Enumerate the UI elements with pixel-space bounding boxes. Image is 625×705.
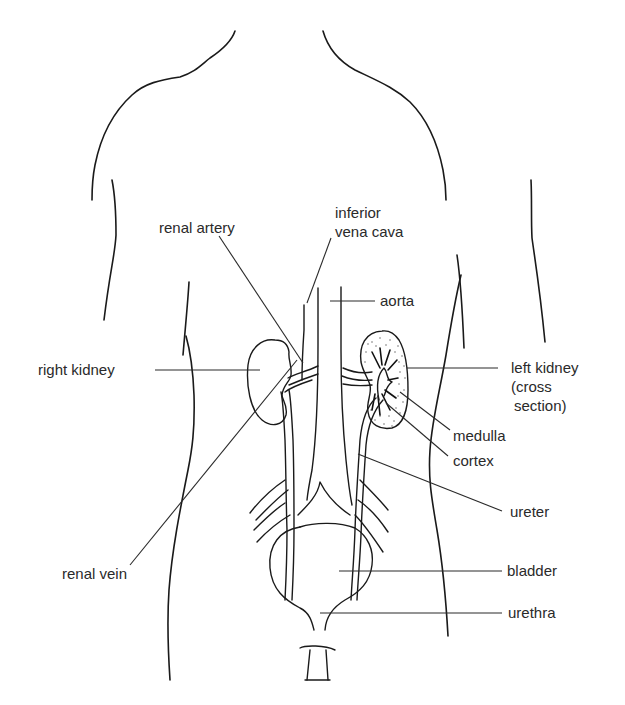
labels: renal artery inferior vena cava aorta ri… — [38, 204, 579, 621]
label-left-kidney-1: left kidney — [511, 359, 579, 376]
label-bladder: bladder — [507, 562, 557, 579]
label-ureter: ureter — [510, 503, 549, 520]
label-right-kidney: right kidney — [38, 361, 115, 378]
great-vessels — [302, 287, 352, 505]
label-left-kidney-2: (cross — [511, 378, 552, 395]
label-medulla: medulla — [453, 427, 506, 444]
right-kidney — [248, 340, 318, 600]
label-renal-artery: renal artery — [159, 219, 235, 236]
label-inferior-vena-cava-1: inferior — [335, 204, 381, 221]
label-inferior-vena-cava-2: vena cava — [335, 223, 404, 240]
label-aorta: aorta — [380, 292, 415, 309]
left-kidney — [342, 331, 408, 600]
label-renal-vein: renal vein — [62, 565, 127, 582]
label-cortex: cortex — [453, 452, 494, 469]
label-left-kidney-3: section) — [514, 397, 567, 414]
label-urethra: urethra — [508, 604, 556, 621]
urinary-system-diagram: renal artery inferior vena cava aorta ri… — [0, 0, 625, 705]
bladder — [270, 523, 373, 680]
